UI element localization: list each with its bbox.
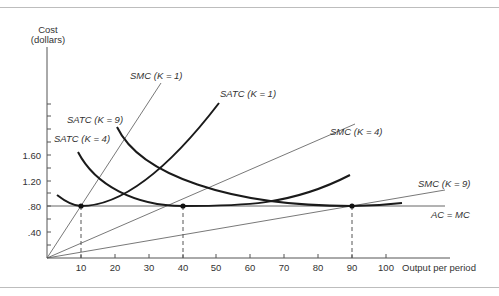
x-tick-label-20: 20 — [110, 262, 121, 273]
y-tick-label-080: .80 — [28, 201, 41, 212]
smc-k9-line — [47, 190, 445, 258]
x-tick-label-40: 40 — [178, 262, 189, 273]
smc-k9-label: SMC (K = 9) — [418, 178, 471, 189]
smc-k1-label: SMC (K = 1) — [130, 70, 183, 81]
x-tick-label-100: 100 — [378, 262, 394, 273]
y-tick-label-120: 1.20 — [23, 176, 42, 187]
smc-k1-line — [47, 83, 161, 258]
x-tick-label-80: 80 — [313, 262, 324, 273]
ac-mc-label: AC = MC — [430, 209, 470, 220]
satc-k4-label: SATC (K = 4) — [54, 133, 110, 144]
x-tick-label-60: 60 — [245, 262, 256, 273]
y-axis-label-line2: (dollars) — [31, 34, 65, 45]
x-tick-label-50: 50 — [211, 262, 222, 273]
x-ticks — [81, 254, 386, 258]
satc-k1-label: SATC (K = 1) — [220, 88, 276, 99]
y-tick-label-160: 1.60 — [23, 150, 42, 161]
y-tick-label-040: .40 — [28, 227, 41, 238]
x-tick-label-30: 30 — [144, 262, 155, 273]
x-tick-label-10: 10 — [76, 262, 87, 273]
satc-k4-curve — [78, 152, 350, 206]
dashed-drop-lines — [81, 206, 352, 258]
x-tick-label-70: 70 — [279, 262, 290, 273]
x-tick-label-90: 90 — [347, 262, 358, 273]
smc-k4-label: SMC (K = 4) — [330, 126, 383, 137]
satc-k9-curve — [117, 127, 402, 206]
cost-curves-chart: Cost (dollars) Output per period 1.60 1.… — [0, 0, 499, 296]
x-axis-label: Output per period — [402, 262, 476, 273]
satc-k9-label: SATC (K = 9) — [67, 114, 123, 125]
y-ticks — [47, 104, 51, 245]
smc-k4-line — [47, 124, 355, 258]
